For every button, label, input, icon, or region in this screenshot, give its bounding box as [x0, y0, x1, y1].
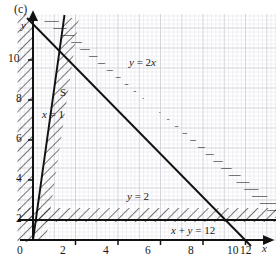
feasible-region-label: S	[60, 87, 66, 98]
x-tick-label-12: 12	[240, 245, 252, 257]
line-label-y-equals-2: y = 2	[127, 191, 149, 202]
line-label-y-equals-2x: y = 2x	[129, 57, 156, 68]
line-label-y-equals-2x-var2: x	[151, 56, 156, 68]
x-tick-label-6: 6	[145, 245, 151, 257]
line-label-sum-rest: = 12	[193, 224, 216, 236]
y-tick-label-10: 10	[8, 53, 20, 65]
x-tick-label-10: 10	[227, 245, 239, 257]
y-tick-label-8: 8	[16, 93, 22, 105]
x-tick-label-8: 8	[188, 245, 194, 257]
panel-label: (c)	[14, 3, 27, 15]
line-label-x-plus-y-12: x + y = 12	[171, 225, 215, 236]
line-label-x-equals-1-rest: = 1	[47, 108, 64, 120]
y-tick-label-6: 6	[16, 133, 22, 145]
x-tick-label-4: 4	[103, 245, 109, 257]
y-axis-arrow	[30, 13, 37, 21]
x-tick-label-0: 0	[17, 245, 23, 257]
y-axis-label: y	[21, 20, 26, 31]
x-tick-label-2: 2	[60, 245, 66, 257]
y-tick-label-4: 4	[16, 173, 22, 185]
y-tick-label-2: 2	[16, 213, 22, 225]
line-label-sum-plus: +	[176, 224, 188, 236]
line-label-x-equals-1: x = 1	[42, 109, 64, 120]
line-label-y-equals-2-rest: = 2	[132, 190, 149, 202]
inequality-region-plot	[0, 0, 276, 264]
x-axis-label: x	[262, 243, 267, 254]
line-label-y-equals-2x-rest: = 2	[134, 56, 151, 68]
graph-figure: (c) y x S 10 8 6 4 2 0 2 4 6 8 10 12 x =…	[0, 0, 276, 264]
